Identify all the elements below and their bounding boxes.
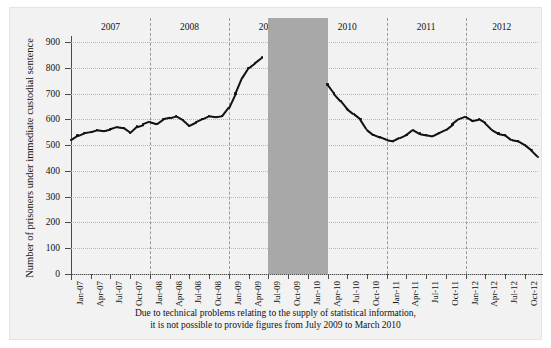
figure-note-line-1: Due to technical problems relating to th… <box>10 308 541 320</box>
data-line-segment <box>241 67 249 78</box>
data-series-line <box>10 8 543 308</box>
data-line-segment <box>235 78 243 94</box>
data-point <box>261 56 263 58</box>
data-point <box>537 156 539 158</box>
figure-note: Due to technical problems relating to th… <box>10 308 541 331</box>
chart-figure: Number of prisoners under immediate cust… <box>9 7 542 340</box>
figure-note-line-2: it is not possible to provide figures fr… <box>10 320 541 332</box>
data-line-segment <box>228 93 236 108</box>
